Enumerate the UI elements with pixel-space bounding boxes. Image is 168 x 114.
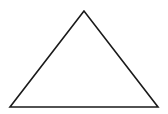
- diagram-canvas: [0, 0, 168, 114]
- triangle-shape: [10, 11, 158, 107]
